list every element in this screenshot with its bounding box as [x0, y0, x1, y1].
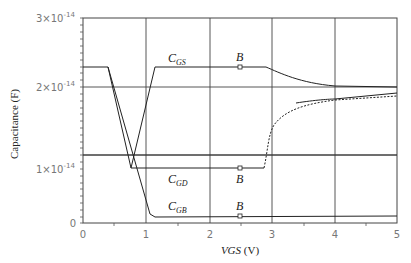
cgb-curve: [108, 67, 397, 217]
y-tick-3: 3×10-14: [36, 11, 75, 24]
cgd-curve-transition: [264, 96, 397, 168]
x-tick-0: 0: [80, 229, 86, 240]
b-label-cgb: B: [236, 199, 244, 213]
cgb-label: CGB: [168, 199, 187, 215]
capacitance-chart: B B B CGS CGD CGB 0 1×10-14 2×10-14 3×10…: [0, 0, 411, 263]
x-tick-3: 3: [269, 229, 275, 240]
x-tick-5: 5: [394, 229, 400, 240]
cgs-curve: [83, 67, 397, 168]
y-tick-2: 2×10-14: [36, 80, 75, 93]
plot-frame: [83, 18, 397, 223]
vertical-grid: [146, 18, 335, 223]
x-tick-2: 2: [207, 229, 213, 240]
cgd-curve-saturation: [296, 93, 397, 103]
x-axis-title: VGS (V): [221, 244, 260, 257]
b-label-cgs: B: [236, 50, 244, 64]
y-tick-1: 1×10-14: [36, 162, 75, 175]
b-label-cgd: B: [236, 172, 244, 186]
marker-b-cgs: [238, 65, 242, 69]
cgd-label: CGD: [168, 172, 188, 188]
marker-b-cgd: [238, 166, 242, 170]
y-axis-title: Capacitance (F): [8, 89, 21, 159]
cgs-label: CGS: [168, 51, 186, 67]
marker-b-cgb: [238, 214, 242, 218]
x-tick-1: 1: [143, 229, 149, 240]
x-tick-4: 4: [332, 229, 338, 240]
y-tick-0: 0: [70, 218, 76, 229]
